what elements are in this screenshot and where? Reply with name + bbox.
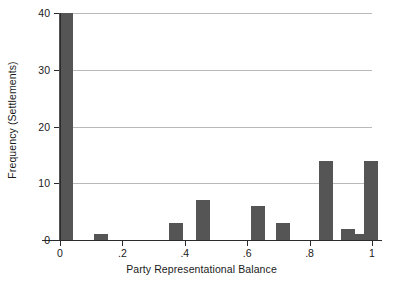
x-tick-label: 0 <box>45 247 75 259</box>
x-axis-title: Party Representational Balance <box>0 263 403 275</box>
x-tick-mark <box>185 241 186 246</box>
x-tick-label: .4 <box>170 247 200 259</box>
x-tick-mark <box>247 241 248 246</box>
bar <box>364 161 378 240</box>
bar <box>276 223 290 240</box>
bar <box>251 206 265 240</box>
x-tick-label: 1 <box>357 247 387 259</box>
bar <box>169 223 183 240</box>
y-tick-label: 40 <box>10 8 50 18</box>
bar <box>341 229 355 240</box>
gridline-y <box>60 13 372 14</box>
x-tick-label: .2 <box>107 247 137 259</box>
y-tick-label: 20 <box>10 122 50 132</box>
histogram-figure: Frequency (Settlements) Party Representa… <box>0 0 403 285</box>
bar <box>59 13 73 240</box>
x-tick-mark <box>310 241 311 246</box>
x-tick-mark <box>122 241 123 246</box>
bar <box>196 200 210 240</box>
x-tick-label: .8 <box>295 247 325 259</box>
x-axis-line <box>42 240 382 241</box>
x-tick-mark <box>372 241 373 246</box>
y-tick-label: 30 <box>10 65 50 75</box>
y-tick-label: 0 <box>10 235 50 245</box>
y-axis-title: Frequency (Settlements) <box>4 0 20 240</box>
gridline-y <box>60 70 372 71</box>
y-tick-label: 10 <box>10 178 50 188</box>
x-tick-label: .6 <box>232 247 262 259</box>
y-axis-line <box>60 13 61 241</box>
gridline-y <box>60 127 372 128</box>
x-tick-mark <box>60 241 61 246</box>
bar <box>319 161 333 240</box>
plot-area <box>60 13 372 240</box>
